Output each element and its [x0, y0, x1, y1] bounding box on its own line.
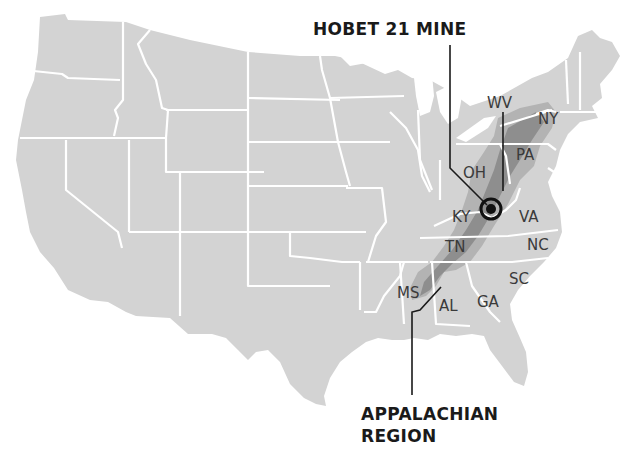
state-label-al: AL — [439, 297, 458, 315]
mine-title: HOBET 21 MINE — [313, 18, 466, 40]
region-label: APPALACHIAN REGION — [361, 403, 498, 447]
state-label-tn: TN — [444, 238, 465, 256]
state-label-wv: WV — [487, 94, 513, 112]
state-label-ny: NY — [538, 110, 559, 128]
state-label-nc: NC — [527, 236, 549, 254]
state-label-oh: OH — [463, 164, 486, 182]
state-label-va: VA — [519, 208, 539, 226]
us-map: WV NY PA OH KY VA TN NC SC MS AL GA — [0, 0, 638, 463]
region-label-line1: APPALACHIAN — [361, 403, 498, 425]
state-label-ky: KY — [452, 208, 471, 226]
region-label-line2: REGION — [361, 425, 498, 447]
state-label-ga: GA — [477, 293, 500, 311]
lake-superior — [340, 46, 400, 66]
state-label-sc: SC — [509, 270, 529, 288]
state-label-ms: MS — [397, 284, 419, 302]
state-label-pa: PA — [516, 146, 535, 164]
